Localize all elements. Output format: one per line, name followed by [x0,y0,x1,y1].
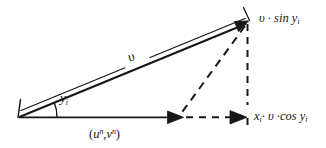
resultant-dashed-line [180,26,245,115]
angle-label: yi [60,91,68,107]
paren-close: ) [116,127,120,141]
vertical-component-subscript: i [297,17,299,26]
horizontal-axis-arrowhead [168,111,184,124]
horizontal-component-arrowhead [230,111,247,124]
angle-subscript: i [66,98,68,107]
vector-decomposition-figure: υ yi υ · sin yi xi· υ ·cos yi (un,vn) [0,0,326,148]
horizontal-component-label: xi· υ ·cos yi [254,110,307,124]
horizontal-component-text: · υ ·cos y [262,109,306,123]
origin-tick-mark [18,100,21,118]
horizontal-component-subscript: i [305,115,307,124]
angle-arc [54,102,57,117]
vertical-component-text: υ · sin y [259,11,297,25]
origin-point-label: (un,vn) [89,128,120,141]
vertical-component-label: υ · sin yi [259,12,300,26]
